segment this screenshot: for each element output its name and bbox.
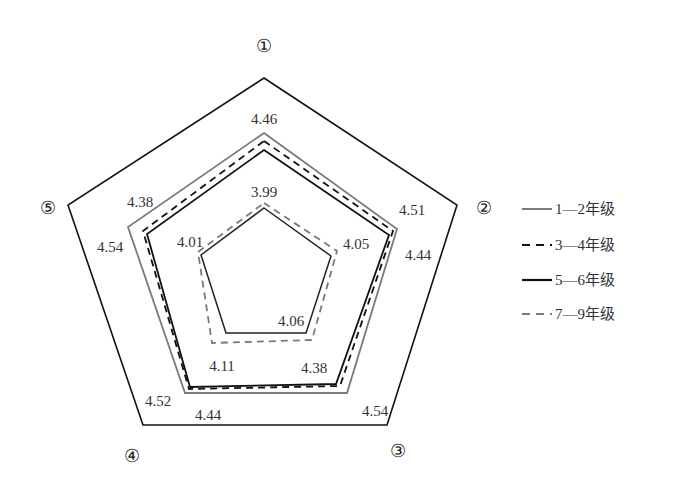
inner-reference-pentagon	[201, 208, 331, 333]
axis-label-1: ①	[256, 36, 272, 56]
axis-label-5: ⑤	[40, 198, 56, 218]
value-label: 4.01	[177, 234, 203, 250]
series-grade-1-2	[128, 133, 397, 393]
legend-label-grade-3-4: 3—4年级	[555, 237, 615, 253]
value-label: 3.99	[251, 184, 277, 200]
value-label: 4.44	[405, 247, 432, 263]
radar-chart: ① ② ③ ④ ⑤ 4.46 4.51 4.44 4.54 4.38 4.06 …	[0, 0, 675, 495]
value-label: 4.38	[301, 360, 327, 376]
value-label: 4.44	[195, 407, 222, 423]
outer-frame	[68, 78, 457, 425]
value-label: 4.38	[127, 194, 153, 210]
value-label: 4.11	[209, 358, 235, 374]
legend-label-grade-1-2: 1—2年级	[555, 201, 615, 217]
value-label: 4.52	[145, 393, 171, 409]
value-label: 4.51	[399, 202, 425, 218]
legend-label-grade-5-6: 5—6年级	[555, 272, 615, 288]
value-label: 4.46	[251, 111, 278, 127]
series-grade-7-9	[198, 203, 337, 343]
value-label: 4.54	[97, 239, 124, 255]
legend-label-grade-7-9: 7—9年级	[555, 306, 615, 322]
value-label: 4.06	[278, 313, 305, 329]
axis-label-4: ④	[124, 446, 140, 466]
axis-label-3: ③	[390, 441, 406, 461]
axis-label-2: ②	[476, 198, 492, 218]
value-label: 4.54	[362, 403, 389, 419]
value-label: 4.05	[343, 236, 369, 252]
legend: 1—2年级 3—4年级 5—6年级 7—9年级	[522, 201, 615, 322]
